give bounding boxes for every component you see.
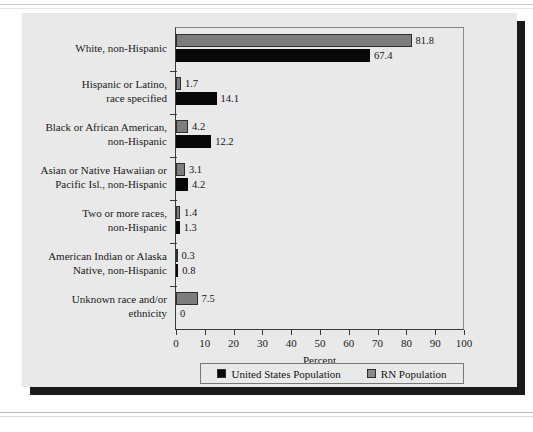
x-axis-tick-label: 50 [315,337,326,349]
x-axis-tick [435,330,436,335]
page-top-rule-second [0,8,533,9]
legend-item: United States Population [217,368,340,380]
bar-value-label: 4.2 [192,178,205,191]
bar-value-label: 3.1 [189,163,202,176]
y-axis-tick [170,243,177,244]
bar-value-label: 67.4 [374,49,392,62]
bar-value-label: 81.8 [416,34,434,47]
category-label: Asian or Native Hawaiian or Pacific Isl.… [22,164,167,191]
bar-value-label: 7.5 [202,292,215,305]
bar-value-label: 14.1 [221,92,239,105]
bar-us-population [176,92,217,105]
y-axis-tick [170,200,177,201]
category-label: Two or more races, non-Hispanic [22,207,167,234]
x-axis-tick [291,330,292,335]
x-axis-tick-label: 40 [286,337,297,349]
category-label: Unknown race and/or ethnicity [22,293,167,320]
bar-value-label: 1.3 [184,221,197,234]
x-axis-tick [406,330,407,335]
category-label: White, non-Hispanic [22,42,167,56]
x-axis-tick [205,330,206,335]
page-top-rule [0,4,533,5]
bar-value-label: 1.4 [184,206,197,219]
bar-us-population [176,135,211,148]
legend-label: RN Population [381,368,447,380]
y-axis-tick [170,157,177,158]
bar-value-label: 0 [180,307,185,320]
bar-us-population [176,221,180,234]
x-axis-tick-label: 0 [173,337,179,349]
x-axis-tick-label: 100 [456,337,473,349]
bar-value-label: 12.2 [215,135,233,148]
legend-label: United States Population [231,368,340,380]
x-axis-tick [176,330,177,335]
x-axis-tick-label: 60 [343,337,354,349]
category-label: Black or African American, non-Hispanic [22,121,167,148]
bar-us-population [176,49,370,62]
bar-rn-population [176,206,180,219]
bar-value-label: 4.2 [192,120,205,133]
x-axis-tick [234,330,235,335]
y-axis-tick [170,114,177,115]
bar-rn-population [176,163,185,176]
x-axis-tick-label: 20 [228,337,239,349]
bar-rn-population [176,120,188,133]
page-bottom-rule [0,412,533,413]
x-axis-ticks [22,330,517,336]
chart-legend: United States PopulationRN Population [200,363,464,384]
bar-value-label: 0.3 [182,249,195,262]
bar-us-population [176,178,188,191]
bar-rn-population [176,77,181,90]
bar-rn-population [176,249,178,262]
x-axis-tick [349,330,350,335]
x-axis-tick-label: 10 [199,337,210,349]
category-label: American Indian or Alaska Native, non-Hi… [22,250,167,277]
x-axis-tick-label: 70 [372,337,383,349]
page-bottom-rule-second [0,416,533,417]
x-axis-tick [262,330,263,335]
bar-rn-population [176,292,198,305]
y-axis-tick [170,286,177,287]
x-axis-tick [320,330,321,335]
x-axis-tick-label: 90 [430,337,441,349]
category-label: Hispanic or Latino, race specified [22,78,167,105]
legend-swatch-icon [217,369,226,378]
x-axis-tick [378,330,379,335]
x-axis-tick [464,330,465,335]
x-axis-tick-label: 30 [257,337,268,349]
bar-rows-container: 81.867.41.714.14.212.23.14.21.41.30.30.8… [176,28,464,329]
legend-swatch-icon [367,369,376,378]
figure-panel: 81.867.41.714.14.212.23.14.21.41.30.30.8… [22,13,517,387]
bar-rn-population [176,34,412,47]
x-axis-tick-label: 80 [401,337,412,349]
legend-item: RN Population [367,368,447,380]
bar-value-label: 0.8 [182,264,195,277]
y-axis-tick [170,71,177,72]
bar-value-label: 1.7 [185,77,198,90]
bar-us-population [176,264,178,277]
